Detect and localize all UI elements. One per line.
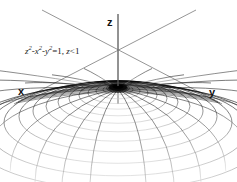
equation-condition-rel: <1: [70, 46, 80, 56]
equation-term-y: -y: [42, 46, 49, 56]
z-axis-label: z: [107, 17, 113, 28]
equation-annotation: z2-x2-y2=1, z<1: [25, 47, 79, 56]
hyperboloid-figure: z x y z2-x2-y2=1, z<1: [0, 0, 237, 182]
y-axis-label: y: [209, 87, 215, 98]
x-axis-label: x: [18, 86, 24, 97]
equation-equals: =1,: [52, 46, 64, 56]
surface-plot-canvas: [0, 0, 237, 182]
equation-term-x: -x: [32, 46, 39, 56]
